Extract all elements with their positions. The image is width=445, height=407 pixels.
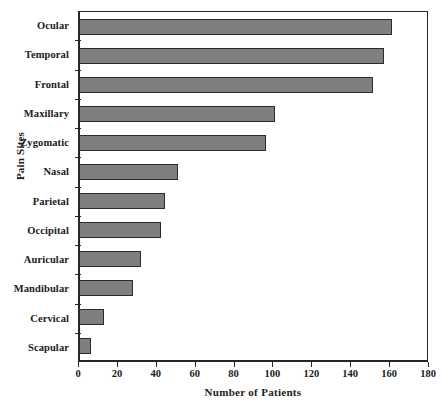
y-axis-category-label: Occipital	[10, 216, 73, 245]
bar	[79, 338, 91, 354]
x-axis-tick	[78, 362, 79, 367]
y-axis-category-label: Maxillary	[10, 99, 73, 128]
bar-row	[80, 273, 427, 302]
bar	[79, 106, 275, 122]
bar	[79, 251, 141, 267]
bar	[79, 164, 178, 180]
bar-row	[80, 215, 427, 244]
x-axis-tick-label: 0	[75, 368, 80, 379]
x-axis-tick	[234, 362, 235, 367]
y-axis-category-label: Scapular	[10, 333, 73, 362]
y-axis-category-label: Auricular	[10, 245, 73, 274]
bar-row	[80, 244, 427, 273]
y-axis-category-label: Frontal	[10, 70, 73, 99]
y-axis-category-label: Mandibular	[10, 274, 73, 303]
bar-row	[80, 302, 427, 331]
bar-row	[80, 99, 427, 128]
x-axis-tick	[389, 362, 390, 367]
plot-area	[78, 11, 428, 362]
x-axis-tick	[195, 362, 196, 367]
x-axis-tick	[311, 362, 312, 367]
x-axis-tick	[428, 362, 429, 367]
y-axis-category-label: Zygomatic	[10, 128, 73, 157]
x-axis-tick	[350, 362, 351, 367]
y-axis-category-label: Cervical	[10, 304, 73, 333]
bar-series	[80, 12, 427, 360]
x-axis-tick-label: 120	[303, 368, 319, 379]
x-axis-tick-label: 60	[189, 368, 200, 379]
x-axis-tick-label: 80	[228, 368, 239, 379]
bar-row	[80, 128, 427, 157]
y-axis-category-label: Parietal	[10, 187, 73, 216]
bar-row	[80, 12, 427, 41]
x-axis-tick-label: 20	[112, 368, 123, 379]
bar	[79, 309, 104, 325]
bar-row	[80, 70, 427, 99]
bar	[79, 135, 266, 151]
bar	[79, 222, 161, 238]
bar-row	[80, 186, 427, 215]
y-axis-category-label: Temporal	[10, 40, 73, 69]
y-axis-category-label: Nasal	[10, 157, 73, 186]
x-axis-tick-labels: 020406080100120140160180	[78, 368, 428, 382]
bar	[79, 280, 133, 296]
x-axis-tick-label: 160	[381, 368, 397, 379]
x-axis-tick	[117, 362, 118, 367]
bar	[79, 77, 373, 93]
bar-chart: Pain Sites OcularTemporalFrontalMaxillar…	[0, 0, 445, 407]
x-axis-tick-label: 100	[265, 368, 281, 379]
x-axis-tick	[156, 362, 157, 367]
bar-row	[80, 331, 427, 360]
bar	[79, 48, 384, 64]
x-axis-tick-label: 140	[342, 368, 358, 379]
bar-row	[80, 41, 427, 70]
y-axis-category-label: Ocular	[10, 11, 73, 40]
x-axis-title: Number of Patients	[78, 386, 428, 398]
x-axis-tick-label: 180	[420, 368, 436, 379]
x-axis-tick	[272, 362, 273, 367]
y-axis-category-labels: OcularTemporalFrontalMaxillaryZygomaticN…	[10, 11, 73, 362]
bar	[79, 19, 392, 35]
x-axis-tick-label: 40	[151, 368, 162, 379]
bar-row	[80, 157, 427, 186]
bar	[79, 193, 165, 209]
